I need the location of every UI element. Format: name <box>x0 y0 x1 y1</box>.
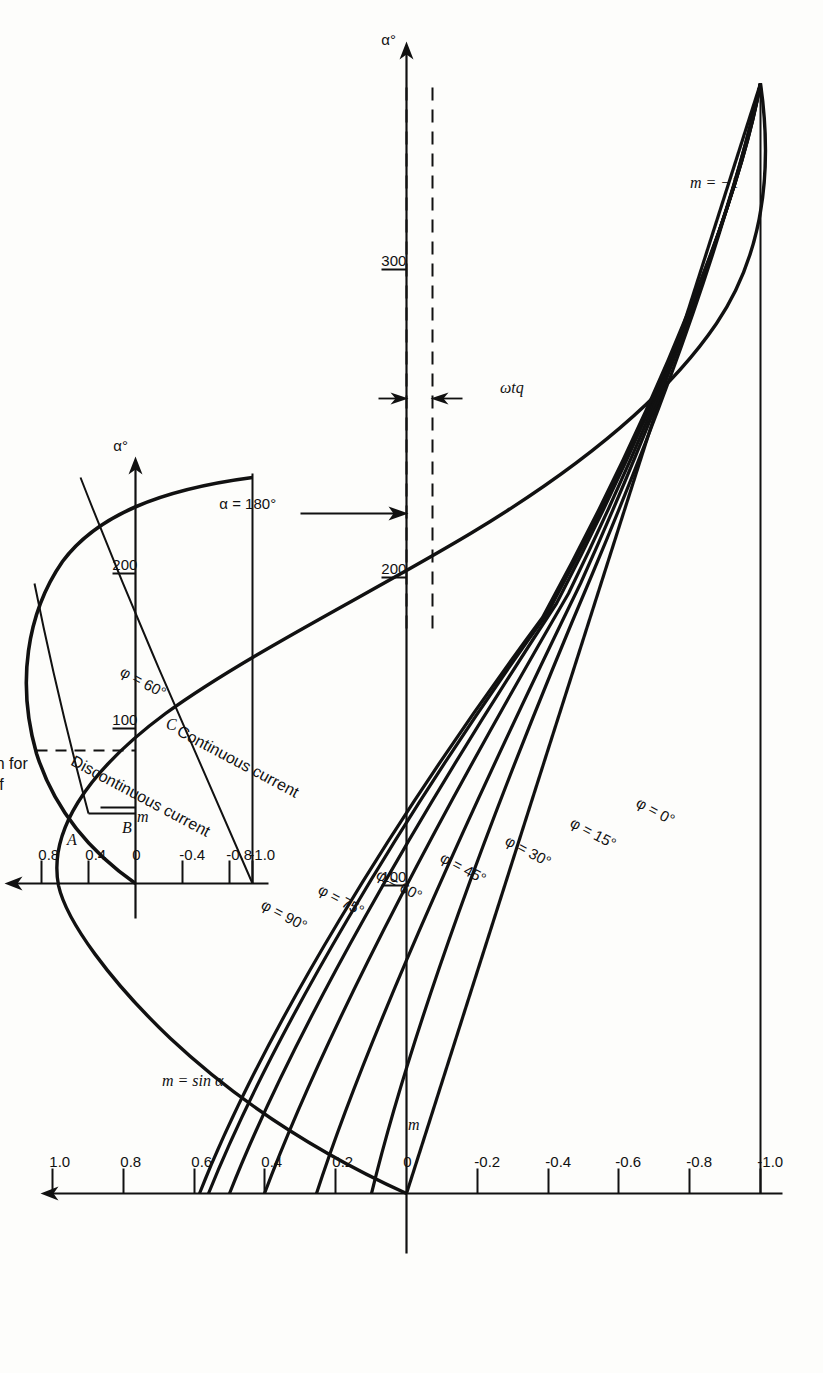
inset-m-tick-2: 0.4 <box>85 845 106 863</box>
curve-phi-0 <box>406 83 760 1193</box>
inset-alpha-axis-label: α° <box>113 436 128 454</box>
curve-phi-75 <box>208 83 760 1193</box>
main-m-tick-11: -1.0 <box>757 1152 783 1170</box>
figure-page: 1.0 0.8 0.6 0.4 0.2 0 -0.2 -0.4 -0.6 -0.… <box>0 0 823 1373</box>
main-m-tick-1: 1.0 <box>49 1152 70 1170</box>
rotated-figure-canvas: 1.0 0.8 0.6 0.4 0.2 0 -0.2 -0.4 -0.6 -0.… <box>0 0 823 1373</box>
inset-title-line1: Modes of <box>0 776 3 795</box>
inset-m-tick-4: -0.4 <box>179 845 205 863</box>
m-minus-one-label: m = −1 <box>689 174 738 193</box>
inset-marker-a: A <box>66 831 76 850</box>
figure-body: 1.0 0.8 0.6 0.4 0.2 0 -0.2 -0.4 -0.6 -0.… <box>0 0 823 1373</box>
main-m-tick-2: 0.8 <box>120 1152 141 1170</box>
alpha-180-marker <box>300 506 408 520</box>
main-m-axis-label: m <box>407 1116 419 1135</box>
inset-title-line2: operation for <box>0 755 27 774</box>
main-m-tick-4: 0.4 <box>261 1152 282 1170</box>
main-m-tick-10: -0.8 <box>686 1152 712 1170</box>
inset-marker-c: C <box>165 716 176 735</box>
inset-alpha-tick-200: 200 <box>112 555 137 573</box>
curve-phi-60 <box>229 83 760 1193</box>
main-alpha-axis-label: α° <box>381 30 396 48</box>
inset-marker-b: B <box>121 819 131 838</box>
main-m-tick-5: 0.2 <box>332 1152 353 1170</box>
omega-tq-dashed-band <box>406 83 432 628</box>
envelope-label: m = sin α <box>161 1072 222 1091</box>
inset-m-tick-6: -1.0 <box>249 845 275 863</box>
main-m-tick-8: -0.4 <box>545 1152 571 1170</box>
main-alpha-tick-300: 300 <box>381 251 406 269</box>
curve-m-equals-sin-alpha <box>56 83 765 1193</box>
curve-phi-30 <box>316 83 760 1193</box>
main-m-tick-7: -0.2 <box>474 1152 500 1170</box>
main-m-tick-6: 0 <box>403 1152 411 1170</box>
main-axes <box>40 41 782 1253</box>
alpha-180-label: α = 180° <box>219 494 276 512</box>
inset-m-tick-3: 0 <box>132 845 140 863</box>
main-m-tick-3: 0.6 <box>191 1152 212 1170</box>
main-m-tick-9: -0.6 <box>615 1152 641 1170</box>
main-alpha-tick-200: 200 <box>381 559 406 577</box>
curve-phi-45 <box>264 83 760 1193</box>
inset-m-tick-1: 0.8 <box>38 845 59 863</box>
omega-tq-arrows <box>378 392 462 404</box>
omega-tq-label: ωtq <box>499 379 523 398</box>
curve-phi-15 <box>371 83 760 1193</box>
inset-m-tick-5: -0.8 <box>226 845 252 863</box>
inset-alpha-tick-100: 100 <box>112 710 137 728</box>
